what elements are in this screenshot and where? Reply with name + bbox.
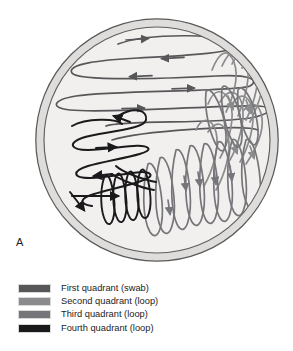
legend-label-first-quadrant: First quadrant (swab) (61, 284, 149, 293)
legend-row-second-quadrant: Second quadrant (loop) (0, 295, 293, 308)
legend-label-fourth-quadrant: Fourth quadrant (loop) (61, 324, 154, 333)
streak-plate-figure: A First quadrant (swab) Second quadrant … (0, 0, 293, 351)
petri-dish-svg (0, 0, 293, 268)
legend-label-third-quadrant: Third quadrant (loop) (61, 310, 148, 319)
first-quadrant-swatch (18, 284, 51, 293)
petri-dish-illustration: A (0, 0, 293, 268)
second-quadrant-swatch (18, 297, 51, 306)
legend: First quadrant (swab) Second quadrant (l… (0, 282, 293, 335)
legend-row-fourth-quadrant: Fourth quadrant (loop) (0, 322, 293, 335)
third-quadrant-swatch (18, 310, 51, 319)
legend-row-first-quadrant: First quadrant (swab) (0, 282, 293, 295)
legend-label-second-quadrant: Second quadrant (loop) (61, 297, 158, 306)
fourth-quadrant-swatch (18, 324, 51, 333)
panel-label-a: A (16, 236, 24, 248)
legend-row-third-quadrant: Third quadrant (loop) (0, 308, 293, 321)
